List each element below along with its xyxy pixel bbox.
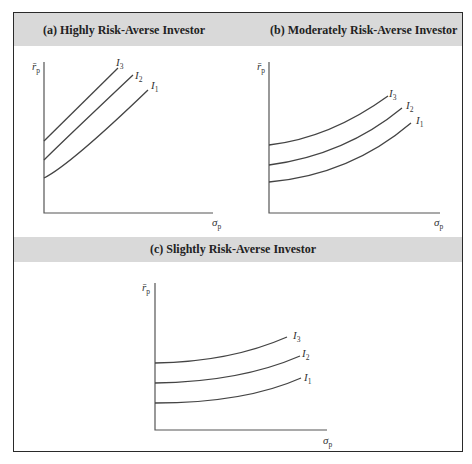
panel-b-axes xyxy=(269,62,440,213)
panel-b-curve-i3 xyxy=(269,96,388,145)
panel-c-ylabel: r̄p xyxy=(142,281,150,296)
panel-a-xlabel: σp xyxy=(212,216,221,231)
panel-a-ylabel: r̄p xyxy=(32,60,40,75)
panel-a-label-i2: I2 xyxy=(134,69,143,84)
panel-c-curve-i3 xyxy=(155,337,287,363)
panel-a-axes xyxy=(44,62,213,213)
panel-b-label-i2: I2 xyxy=(405,99,414,114)
panel-b-ylabel: r̄p xyxy=(257,60,265,75)
panel-a-label-i1: I1 xyxy=(150,79,159,94)
panel-a-label-i3: I3 xyxy=(115,56,124,71)
panel-b-curve-i1 xyxy=(269,123,411,182)
panel-c-curve-i2 xyxy=(155,356,300,383)
panel-b-label-i1: I1 xyxy=(415,114,424,129)
panel-b-label-i3: I3 xyxy=(388,87,397,102)
panel-c-label-i2: I2 xyxy=(301,347,310,362)
panel-c-xlabel: σp xyxy=(323,434,332,449)
panel-b-curve-i2 xyxy=(269,108,402,165)
panel-a-curve-i1 xyxy=(44,90,148,178)
panel-b-xlabel: σp xyxy=(434,216,443,231)
panel-a-curve-i3 xyxy=(44,68,118,141)
charts-canvas: r̄p σp r̄p σp r̄p σp I3 I2 I1 I3 I2 I1 I… xyxy=(0,0,472,464)
panel-c-label-i3: I3 xyxy=(292,329,301,344)
panel-c-label-i1: I1 xyxy=(303,371,312,386)
